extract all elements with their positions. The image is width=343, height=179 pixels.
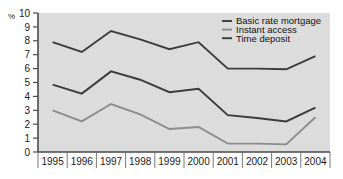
x-axis-label-1995: 1995 (41, 156, 64, 167)
y-tick-label-5: 5 (24, 77, 30, 88)
y-tick-label-1: 1 (24, 133, 30, 144)
x-axis-label-1998: 1998 (129, 156, 152, 167)
y-tick-label-7: 7 (24, 49, 30, 60)
y-axis-unit-label: % (8, 12, 15, 21)
x-axis-label-2000: 2000 (187, 156, 210, 167)
x-axis-label-1997: 1997 (100, 156, 123, 167)
y-tick-label-6: 6 (24, 63, 30, 74)
y-tick-label-10: 10 (19, 8, 31, 19)
y-tick-label-0: 0 (24, 147, 30, 158)
y-axis-tick-labels: 012345678910 (19, 8, 31, 158)
y-tick-label-8: 8 (24, 35, 30, 46)
legend-label-time-deposit: Time deposit (236, 33, 290, 44)
x-axis-label-2003: 2003 (275, 156, 298, 167)
chart-canvas: 012345678910 % 1995199619971998199920002… (0, 0, 343, 179)
x-axis-label-2001: 2001 (217, 156, 240, 167)
x-axis-label-1996: 1996 (71, 156, 94, 167)
y-tick-label-9: 9 (24, 22, 30, 33)
line-chart: 012345678910 % 1995199619971998199920002… (0, 0, 343, 179)
y-tick-label-3: 3 (24, 105, 30, 116)
y-tick-label-2: 2 (24, 119, 30, 130)
x-axis-label-2004: 2004 (304, 156, 327, 167)
x-axis-label-2002: 2002 (246, 156, 269, 167)
y-tick-label-4: 4 (24, 91, 30, 102)
x-axis-label-1999: 1999 (158, 156, 181, 167)
